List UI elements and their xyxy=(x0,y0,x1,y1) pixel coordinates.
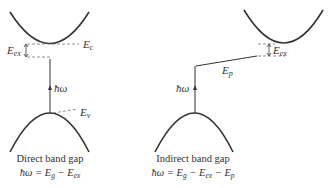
eex-label: Eex xyxy=(6,44,21,58)
conduction-band-curve xyxy=(10,12,89,44)
ep-label: Ep xyxy=(221,64,233,78)
photon-energy-label: ħω xyxy=(54,82,68,94)
direct-band-gap-title: Direct band gap xyxy=(16,153,83,164)
valence-band-curve xyxy=(155,113,233,152)
photon-energy-label: ħω xyxy=(176,82,190,94)
valence-band-curve xyxy=(10,113,89,152)
band-gap-diagram: Ec Eex ħω Ev Direct band gap ħω = Eg − E… xyxy=(0,0,334,188)
ec-label: Ec xyxy=(82,38,94,52)
indirect-band-gap-title: Indirect band gap xyxy=(156,153,229,164)
ev-dashed-line xyxy=(53,109,78,113)
direct-band-gap-equation: ħω = Eg − Eex xyxy=(20,167,81,180)
indirect-band-gap-panel: Eex Ep ħω Indirect band gap ħω = Eg − Ee… xyxy=(151,10,323,180)
ev-label: Ev xyxy=(79,106,91,120)
direct-band-gap-panel: Ec Eex ħω Ev Direct band gap ħω = Eg − E… xyxy=(6,12,94,180)
indirect-band-gap-equation: ħω = Eg − Eex − Ep xyxy=(151,167,234,180)
eex-label: Eex xyxy=(272,44,287,58)
conduction-band-curve xyxy=(244,10,323,43)
